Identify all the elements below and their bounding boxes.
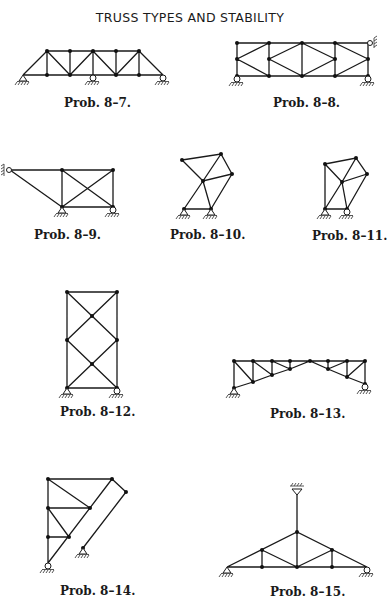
caption-8-12: Prob. 8–12. xyxy=(60,405,135,419)
truss-8-8 xyxy=(229,36,377,86)
truss-8-13 xyxy=(226,359,371,398)
truss-8-14 xyxy=(40,477,128,573)
caption-8-8: Prob. 8–8. xyxy=(273,96,340,110)
caption-8-11: Prob. 8–11. xyxy=(312,229,387,243)
truss-8-11 xyxy=(317,156,369,219)
truss-8-12 xyxy=(59,290,123,398)
truss-8-15 xyxy=(219,483,373,577)
caption-8-9: Prob. 8–9. xyxy=(34,228,101,242)
caption-8-10: Prob. 8–10. xyxy=(170,228,245,242)
caption-8-14: Prob. 8–14. xyxy=(60,584,135,598)
caption-8-13: Prob. 8–13. xyxy=(270,407,345,421)
caption-8-7: Prob. 8–7. xyxy=(64,96,131,110)
caption-8-15: Prob. 8–15. xyxy=(270,585,345,599)
truss-8-9 xyxy=(1,164,119,217)
truss-8-10 xyxy=(176,152,234,219)
truss-8-7 xyxy=(15,49,169,85)
